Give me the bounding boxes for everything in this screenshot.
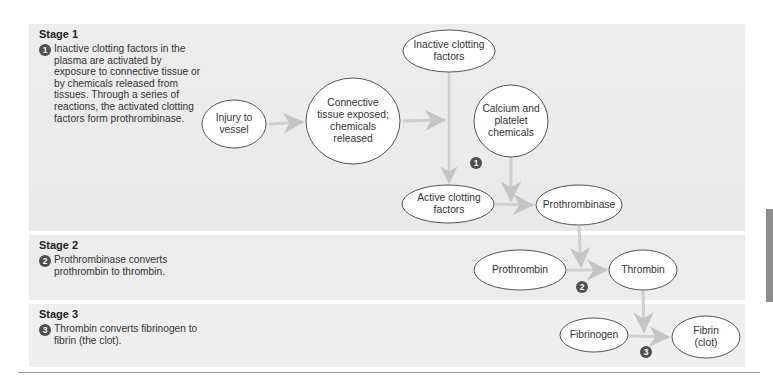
node-injury-label: Injury to vessel: [208, 104, 260, 144]
node-connective-label: Connective tissue exposed; chemicals rel…: [314, 85, 392, 157]
node-fibrin-label: Fibrin (clot): [682, 321, 730, 353]
node-active-label: Active clotting factors: [410, 188, 488, 220]
arrow-prothrombinase-down: [579, 227, 581, 266]
node-calcium-label: Calcium and platelet chemicals: [480, 90, 542, 152]
node-prothrombinase-label: Prothrombinase: [538, 195, 620, 215]
diagram-badge-2: 2: [576, 281, 588, 293]
node-fibrinogen-label: Fibrinogen: [562, 325, 626, 345]
clotting-cascade-diagram: [0, 0, 773, 383]
bottom-divider: [18, 372, 760, 373]
arrow-active-to-prothrombinase: [496, 204, 532, 205]
arrow-connective-to-cascade: [404, 120, 444, 121]
arrow-thrombin-down: [643, 292, 644, 331]
diagram-badge-3: 3: [640, 346, 652, 358]
page-edge-tab: [766, 209, 773, 302]
node-prothrombin-label: Prothrombin: [478, 260, 562, 280]
node-thrombin-label: Thrombin: [612, 260, 674, 280]
arrow-injury-to-connective: [270, 122, 302, 124]
diagram-badge-1: 1: [470, 157, 482, 169]
arrow-fibrinogen-to-fibrin: [630, 336, 668, 337]
node-inactive-label: Inactive clotting factors: [410, 34, 488, 68]
